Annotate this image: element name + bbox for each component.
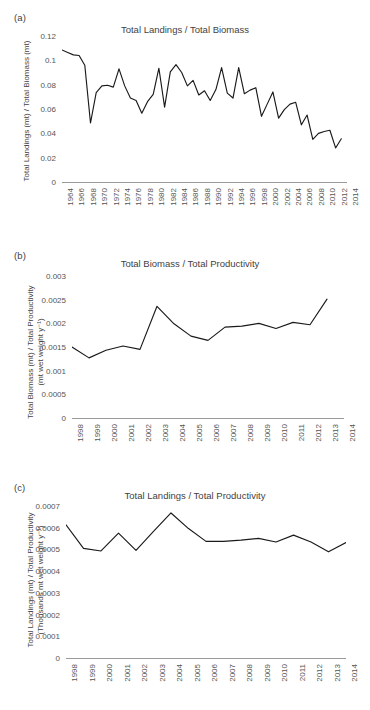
panel-a-y-tick: 0.1	[4, 56, 56, 65]
panel-b-y-tick: 0.002	[14, 319, 66, 328]
panel-a-y-tick: 0	[4, 178, 56, 187]
panel-c-y-tick: 0.0004	[8, 567, 60, 576]
panel-b-y-tick: 0.0015	[14, 343, 66, 352]
panel-a-y-tick: 0.12	[4, 32, 56, 41]
panel-c-y-axis-label: Total Landings (mt) / Total Productivity…	[26, 490, 45, 670]
panel-a: (a) Total Landings / Total Biomass Total…	[0, 0, 370, 238]
panel-c-title: Total Landings / Total Productivity	[20, 490, 370, 501]
panel-a-plot-area: 00.020.040.060.080.10.12	[62, 36, 347, 182]
panel-b-line-series	[72, 276, 344, 420]
panel-b-title: Total Biomass / Total Productivity	[20, 258, 360, 269]
panel-a-line-series	[62, 36, 347, 184]
panel-a-y-tick: 0.02	[4, 153, 56, 162]
panel-a-y-tick: 0.04	[4, 129, 56, 138]
panel-c-y-tick: 0	[8, 654, 60, 663]
panel-b-plot-area: 00.00050.0010.00150.0020.00250.003	[72, 276, 344, 418]
figure-container: (a) Total Landings / Total Biomass Total…	[0, 0, 370, 710]
panel-c-y-tick: 0.0001	[8, 632, 60, 641]
panel-b: (b) Total Biomass / Total Productivity T…	[0, 238, 370, 470]
panel-b-y-tick: 0	[14, 414, 66, 423]
panel-b-y-tick: 0.001	[14, 366, 66, 375]
panel-a-y-tick: 0.06	[4, 105, 56, 114]
panel-a-y-tick: 0.08	[4, 80, 56, 89]
panel-c-y-tick: 0.0005	[8, 545, 60, 554]
panel-b-y-tick: 0.0025	[14, 295, 66, 304]
panel-c-y-tick: 0.0003	[8, 588, 60, 597]
panel-c: (c) Total Landings / Total Productivity …	[0, 470, 370, 710]
panel-b-y-axis-label-line2: (mt wet weight y⁻¹)	[36, 268, 46, 436]
panel-c-y-tick: 0.0002	[8, 610, 60, 619]
panel-c-plot-area: 00.00010.00020.00030.00040.00050.00060.0…	[66, 506, 346, 658]
panel-c-line-series	[66, 506, 346, 660]
panel-c-y-axis-label-line2: (Thousands mt wet weight y⁻¹)	[36, 490, 46, 670]
panel-c-y-tick: 0.0006	[8, 523, 60, 532]
panel-b-y-axis-label: Total Biomass (mt) / Total Productivity …	[26, 268, 45, 436]
panel-b-y-tick: 0.003	[14, 272, 66, 281]
panel-b-y-tick: 0.0005	[14, 390, 66, 399]
panel-a-label: (a)	[14, 12, 26, 23]
panel-c-y-tick: 0.0007	[8, 502, 60, 511]
panel-c-y-axis-label-line1: Total Landings (mt) / Total Productivity	[26, 512, 35, 647]
